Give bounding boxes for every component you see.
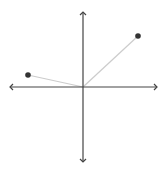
- vector-upper-left-point: [25, 72, 31, 78]
- axes: [10, 12, 157, 162]
- coordinate-plane: [0, 0, 164, 169]
- vector-upper-left-line: [28, 75, 83, 87]
- vector-upper-right-line: [83, 36, 138, 87]
- vector-upper-right-point: [135, 33, 141, 39]
